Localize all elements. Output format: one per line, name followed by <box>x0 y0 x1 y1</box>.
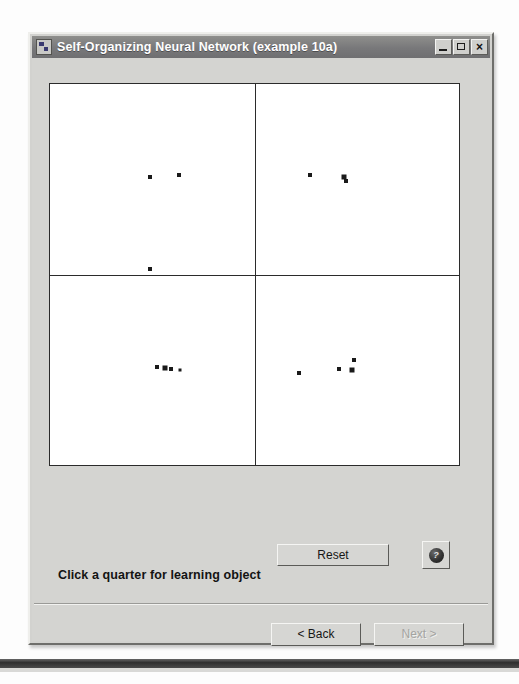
title-bar[interactable]: Self-Organizing Neural Network (example … <box>32 36 490 58</box>
scan-edge-artifact-secondary <box>0 668 519 672</box>
neuron-node <box>297 371 301 375</box>
application-window: Self-Organizing Neural Network (example … <box>28 32 494 645</box>
neuron-node <box>344 179 348 183</box>
reset-button[interactable]: Reset <box>277 544 389 566</box>
neuron-node <box>177 173 181 177</box>
status-text: Click a quarter for learning object <box>58 568 261 582</box>
next-button: Next > <box>374 623 464 646</box>
neuron-node <box>155 365 159 369</box>
window-title: Self-Organizing Neural Network (example … <box>57 40 434 54</box>
help-icon: ? <box>429 548 444 563</box>
neuron-node <box>179 368 182 371</box>
quadrant-bottom-left[interactable] <box>50 275 255 466</box>
quadrant-top-left[interactable] <box>50 84 255 275</box>
neuron-node <box>352 358 356 362</box>
close-button[interactable]: × <box>471 39 488 55</box>
scanned-page: Self-Organizing Neural Network (example … <box>0 0 519 684</box>
maximize-button[interactable] <box>453 39 470 55</box>
neuron-node <box>337 367 341 371</box>
window-client-area: Reset ? Click a quarter for learning obj… <box>32 58 490 641</box>
som-map-canvas[interactable] <box>49 83 460 466</box>
help-button[interactable]: ? <box>422 541 450 569</box>
neuron-node <box>308 173 312 177</box>
neuron-node <box>162 366 167 371</box>
back-button[interactable]: < Back <box>271 623 361 646</box>
scan-edge-artifact <box>0 659 519 668</box>
neuron-node <box>148 267 152 271</box>
neuron-node <box>169 367 173 371</box>
neuron-node <box>349 368 354 373</box>
minimize-button[interactable] <box>435 39 452 55</box>
horizontal-separator <box>34 603 488 605</box>
quadrant-bottom-right[interactable] <box>255 275 460 466</box>
neuron-node <box>148 175 152 179</box>
application-window-icon <box>36 39 52 55</box>
quadrant-top-right[interactable] <box>255 84 460 275</box>
